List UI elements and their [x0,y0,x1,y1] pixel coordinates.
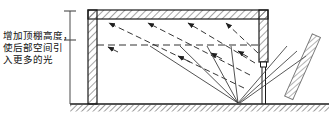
annotation-text-block: 增加顶棚高度， 使后部空间引 入更多的光 [3,30,65,67]
mid-arrow-4 [108,47,118,52]
daylighting-section-diagram: 增加顶棚高度， 使后部空间引 入更多的光 [0,0,329,131]
reflected-ceiling-rays-group [109,23,258,88]
annotation-line-1: 增加顶棚高度， [3,30,65,42]
mid-arrow-1 [178,56,190,62]
exterior-reflector [285,34,321,100]
solid-ray-2 [180,46,238,103]
ground-line-group [70,104,329,112]
interior-solid-rays-group [150,46,238,103]
window-head-detail [261,62,267,67]
reflected-ray-1 [109,23,244,88]
reflected-ray-4 [226,23,258,53]
left-rear-wall [88,10,97,104]
annotation-line-2: 使后部空间引 [3,42,65,54]
ceiling-height-dimension [64,11,76,104]
right-window-wall [259,10,268,104]
ceiling-hatch [88,10,268,19]
left-wall-hatch [88,10,97,104]
annotation-line-3: 入更多的光 [3,54,65,66]
solid-ray-1 [150,46,238,103]
solid-ray-4 [231,46,238,103]
mid-ray-arrow-group [108,47,248,62]
solid-ray-3 [207,46,238,103]
reflected-ray-3 [188,23,255,63]
right-wall-hatch [259,10,268,62]
reflector-panel-hatch [285,34,321,100]
ceiling-slab [88,10,268,19]
ground-hatch [70,105,329,112]
